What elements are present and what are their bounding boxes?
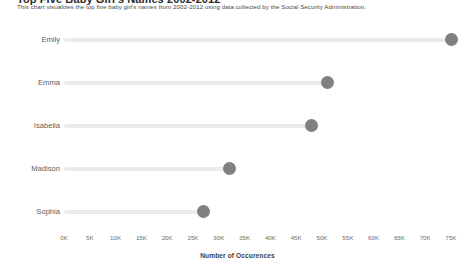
category-label-emma: Emma	[0, 73, 60, 93]
lollipop-row: Emily	[0, 30, 475, 50]
lollipop-dot[interactable]	[197, 205, 210, 218]
lollipop-dot[interactable]	[223, 162, 236, 175]
lollipop-stem	[64, 210, 203, 214]
lollipop-row: Emma	[0, 73, 475, 93]
category-label-emily: Emily	[0, 30, 60, 50]
lollipop-stem	[64, 38, 451, 42]
lollipop-row: Isabella	[0, 116, 475, 136]
x-axis-tick: 75K	[431, 234, 471, 241]
x-axis: 0K5K10K15K20K25K30K35K40K45K50K55K60K65K…	[0, 234, 475, 246]
x-axis-title: Number of Occurences	[0, 252, 475, 259]
plot-area: EmilyEmmaIsabellaMadisonSophia	[0, 20, 475, 230]
category-label-isabella: Isabella	[0, 116, 60, 136]
lollipop-row: Sophia	[0, 202, 475, 222]
category-label-sophia: Sophia	[0, 202, 60, 222]
lollipop-stem	[64, 124, 312, 128]
category-label-madison: Madison	[0, 159, 60, 179]
lollipop-dot[interactable]	[321, 76, 334, 89]
lollipop-stem	[64, 81, 327, 85]
chart-subtitle: This chart visualizes the top five baby …	[17, 3, 366, 10]
lollipop-dot[interactable]	[445, 33, 458, 46]
lollipop-chart: Top Five Baby Girl's Names 2002-2012 Thi…	[0, 0, 475, 270]
lollipop-row: Madison	[0, 159, 475, 179]
lollipop-dot[interactable]	[305, 119, 318, 132]
lollipop-stem	[64, 167, 229, 171]
